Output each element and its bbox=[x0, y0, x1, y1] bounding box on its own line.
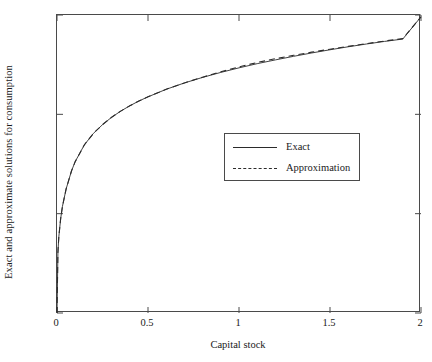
legend-label-exact: Exact bbox=[286, 141, 310, 153]
x-tick-label: 1.5 bbox=[299, 316, 359, 329]
x-axis-label: Capital stock bbox=[56, 338, 420, 352]
legend-item-exact: Exact bbox=[225, 137, 359, 157]
legend-label-approximation: Approximation bbox=[286, 162, 350, 174]
x-tick-label: 1 bbox=[208, 316, 268, 329]
x-tick-label: 2 bbox=[390, 316, 432, 329]
legend-line-solid-icon bbox=[233, 141, 277, 153]
chart-figure: Exact and approximate solutions for cons… bbox=[0, 0, 432, 362]
x-tick-label: 0 bbox=[26, 316, 86, 329]
legend-line-dashed-icon bbox=[233, 162, 277, 174]
chart-legend: Exact Approximation bbox=[224, 133, 360, 181]
y-axis-label: Exact and approximate solutions for cons… bbox=[0, 16, 18, 328]
legend-item-approximation: Approximation bbox=[225, 158, 359, 178]
x-tick-label: 0.5 bbox=[117, 316, 177, 329]
